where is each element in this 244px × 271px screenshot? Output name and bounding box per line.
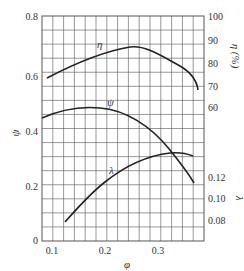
y-left-tick-0: 0	[33, 235, 38, 246]
y-lambda-tick-0.08: 0.08	[208, 215, 226, 226]
y-lambda-title: λ	[234, 195, 244, 201]
lambda-curve-label: λ	[108, 164, 114, 176]
y-eta-tick-80: 80	[208, 58, 218, 69]
y-eta-tick-60: 60	[208, 102, 218, 113]
y-left-tick-0.2: 0.2	[26, 181, 39, 192]
y-left-tick-0.4: 0.4	[26, 126, 39, 137]
x-tick-0.1: 0.1	[46, 245, 59, 256]
y-left-tick-0.8: 0.8	[26, 11, 39, 22]
x-axis-title: φ	[124, 258, 130, 270]
eta-curve-label: η	[97, 38, 102, 50]
y-left-title: ψ	[9, 129, 21, 136]
psi-curve-label: ψ	[107, 96, 114, 108]
y-lambda-tick-0.10: 0.10	[208, 193, 226, 204]
y-lambda-tick-0.12: 0.12	[208, 172, 226, 183]
x-tick-0.3: 0.3	[152, 245, 165, 256]
y-eta-tick-90: 90	[208, 35, 218, 46]
x-tick-0.2: 0.2	[99, 245, 112, 256]
y-left-tick-0.6: 0.6	[26, 71, 39, 82]
y-eta-tick-70: 70	[208, 81, 218, 92]
lambda-curve	[65, 153, 193, 222]
eta-curve	[47, 47, 198, 90]
y-eta-tick-100: 100	[208, 11, 223, 22]
performance-chart: 0 0.2 0.4 0.6 0.8 ψ 100 90 80 70 60 η (%…	[0, 0, 244, 271]
y-eta-title: η (%)	[229, 44, 242, 69]
grid	[42, 16, 204, 241]
